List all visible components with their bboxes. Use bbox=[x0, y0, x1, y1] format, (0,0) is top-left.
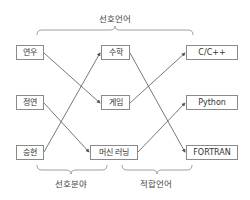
node-field-game: 게임 bbox=[101, 95, 130, 110]
node-field-math: 수학 bbox=[101, 45, 130, 60]
bottom-left-brace bbox=[37, 165, 107, 174]
top-brace bbox=[37, 26, 193, 35]
node-lang-cpp: C/C++ bbox=[186, 45, 238, 60]
node-person-jeongyeon: 정연 bbox=[16, 95, 44, 110]
edge-seunghyeon-math bbox=[44, 53, 100, 152]
node-lang-fortran: FORTRAN bbox=[186, 145, 238, 160]
bottom-group-label-field: 선호분야 bbox=[55, 177, 87, 189]
edge-game-cpp bbox=[130, 53, 185, 103]
node-person-seunghyeon: 승현 bbox=[16, 145, 44, 160]
node-person-yeonwoo: 연우 bbox=[16, 45, 44, 60]
node-field-ml: 머신 러닝 bbox=[90, 145, 138, 160]
edge-jeongyeon-ml bbox=[44, 103, 89, 152]
edge-math-fortran bbox=[130, 53, 185, 152]
bottom-group-label-language: 적합언어 bbox=[140, 177, 172, 189]
diagram-canvas: 선호언어 선호분야 적합언어 연우 정연 승현 수학 게임 머신 러닝 C/C+… bbox=[0, 0, 250, 200]
bottom-right-brace bbox=[122, 165, 192, 174]
edge-yeonwoo-game bbox=[44, 53, 100, 103]
node-lang-python: Python bbox=[186, 95, 238, 110]
top-group-label: 선호언어 bbox=[99, 12, 131, 24]
